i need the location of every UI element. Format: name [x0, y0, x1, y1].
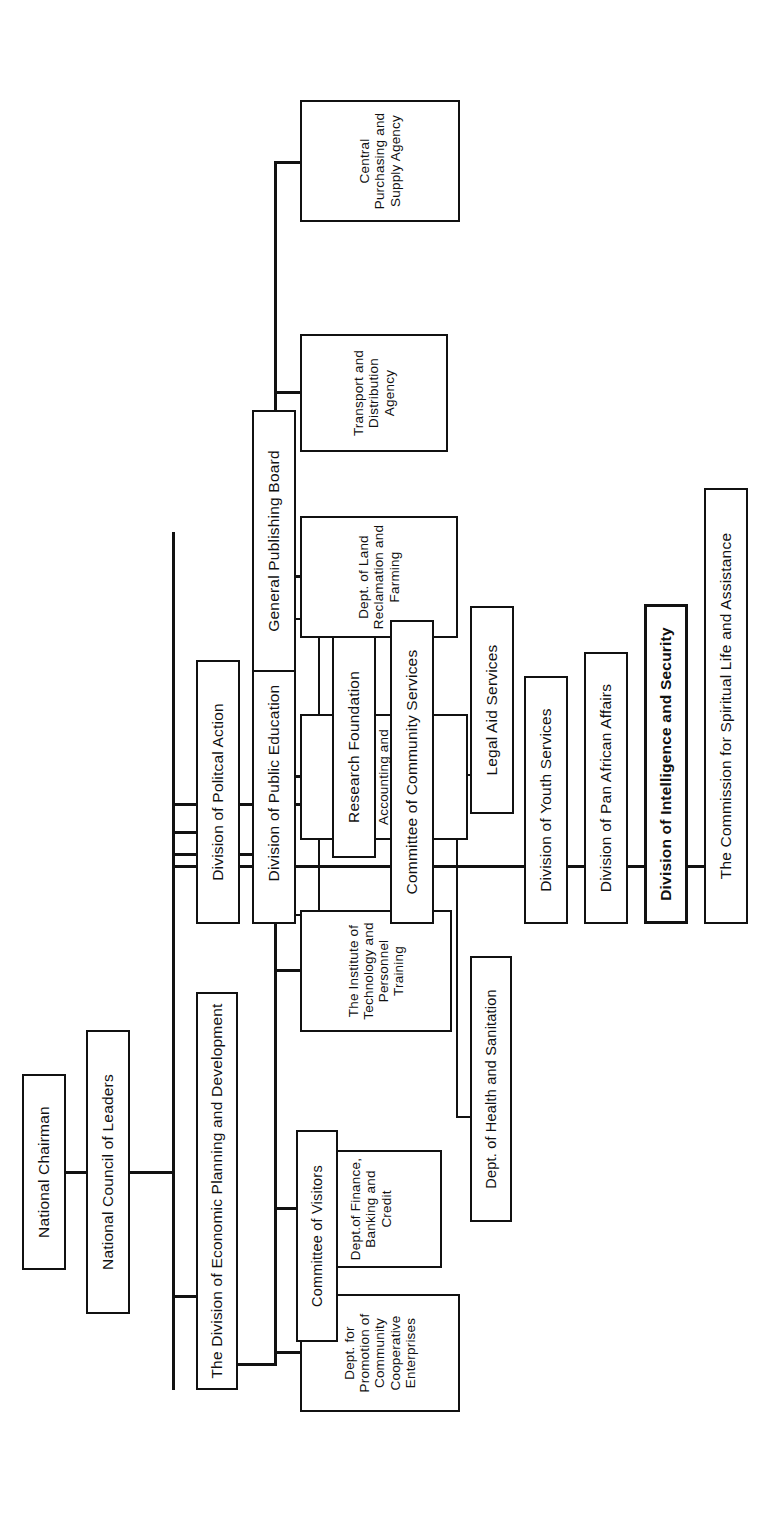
node-research-foundation[interactable]: Research Foundation [332, 636, 376, 858]
node-label: The Division of Economic Planning and De… [208, 997, 225, 1385]
node-economic-planning-division[interactable]: The Division of Economic Planning and De… [196, 992, 238, 1390]
edge-council-to-division-pan-african [568, 865, 584, 868]
edge-economic-spine-stub [238, 1363, 274, 1366]
node-committee-of-visitors[interactable]: Committee of Visitors [296, 1130, 338, 1342]
node-label: General Publishing Board [265, 415, 282, 667]
node-national-chairman[interactable]: National Chairman [22, 1074, 66, 1270]
node-division-pan-african-affairs[interactable]: Division of Pan African Affairs [584, 652, 628, 924]
edge-community-to-dept-health [456, 1116, 470, 1118]
node-central-office-accounting[interactable]: Central Office of Accounting and Financi… [300, 714, 468, 840]
org-chart-canvas: National Chairman National Council of Le… [0, 0, 772, 1528]
node-general-publishing-board[interactable]: General Publishing Board [252, 410, 296, 672]
edge-chairman-to-council [66, 1171, 86, 1174]
node-label: Dept. of Land Reclamation and Farming [356, 521, 401, 633]
node-division-political-action[interactable]: Division of Politcal Action [196, 660, 240, 924]
node-label: Committee of Community Services [403, 625, 420, 919]
edge-council-to-division-intelligence [628, 865, 644, 868]
node-label: Division of Youth Services [537, 681, 554, 919]
node-label: Committee of Visitors [309, 1135, 325, 1337]
node-label: Division of Pan African Affairs [597, 657, 614, 919]
node-label: Division of Public Education [265, 647, 282, 919]
node-division-youth-services[interactable]: Division of Youth Services [524, 676, 568, 924]
edge-economic-to-transport [274, 391, 300, 394]
edge-intelligence-to-commission-spiritual [688, 865, 704, 868]
node-label: Research Foundation [345, 641, 362, 853]
node-transport-distribution-agency[interactable]: Transport and Distribution Agency [300, 334, 448, 452]
node-committee-community-services[interactable]: Committee of Community Services [390, 620, 434, 924]
node-national-council[interactable]: National Council of Leaders [86, 1030, 130, 1314]
node-label: The Institute of Technology and Personne… [346, 915, 406, 1027]
edge-council-backbone [172, 532, 175, 1390]
edge-council-trunk-stub [130, 1171, 172, 1174]
node-dept-land-reclamation-farming[interactable]: Dept. of Land Reclamation and Farming [300, 516, 458, 638]
node-label: National Chairman [35, 1079, 52, 1265]
node-legal-aid-services[interactable]: Legal Aid Services [470, 606, 514, 814]
edge-economic-to-dept-promotion [274, 1351, 300, 1354]
node-commission-spiritual-life[interactable]: The Commission for Spiritual Life and As… [704, 488, 748, 924]
edge-economic-to-institute-technology [274, 969, 300, 972]
node-central-purchasing-supply-agency[interactable]: Central Purchasing and Supply Agency [300, 100, 460, 222]
edge-council-to-economic [172, 1295, 196, 1298]
node-label: Dept.of Finance, Banking and Credit [348, 1155, 393, 1263]
node-label: Division of Intelligence and Security [657, 610, 674, 918]
node-institute-technology-personnel[interactable]: The Institute of Technology and Personne… [300, 910, 452, 1032]
node-label: National Council of Leaders [99, 1035, 116, 1309]
edge-council-to-division-political [172, 831, 196, 834]
node-division-intelligence-security[interactable]: Division of Intelligence and Security [644, 604, 688, 924]
node-dept-health-sanitation[interactable]: Dept. of Health and Sanitation [470, 956, 512, 1222]
node-label: The Commission for Spiritual Life and As… [717, 493, 734, 919]
node-label: Dept. of Health and Sanitation [483, 961, 499, 1217]
node-label: Central Purchasing and Supply Agency [357, 105, 402, 217]
edge-economic-to-central-purchasing [274, 161, 300, 164]
node-division-public-education[interactable]: Division of Public Education [252, 642, 296, 924]
node-label: Legal Aid Services [483, 611, 500, 809]
node-label: Transport and Distribution Agency [351, 339, 396, 447]
node-label: Division of Politcal Action [209, 665, 226, 919]
node-label: Dept. for Promotion of Community Coopera… [342, 1299, 418, 1407]
